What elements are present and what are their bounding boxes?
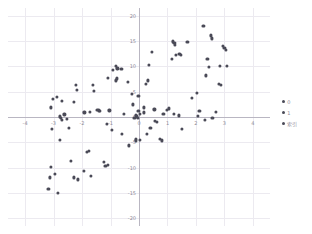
data-point bbox=[120, 132, 123, 135]
data-point bbox=[214, 110, 217, 113]
data-point bbox=[211, 116, 214, 119]
data-point bbox=[110, 129, 113, 132]
data-point bbox=[53, 173, 56, 176]
y-axis-tick-label: -15 bbox=[125, 190, 136, 196]
data-point bbox=[218, 65, 221, 68]
legend-item-label: 索引 bbox=[287, 121, 297, 127]
x-axis-tick-label: 1 bbox=[166, 120, 169, 126]
legend-marker-icon bbox=[282, 111, 285, 114]
legend-marker-icon bbox=[282, 122, 285, 125]
data-point bbox=[210, 37, 213, 40]
data-point bbox=[145, 132, 148, 135]
data-point bbox=[179, 54, 182, 57]
data-point bbox=[67, 127, 70, 130]
data-point bbox=[76, 178, 79, 181]
data-point bbox=[99, 109, 102, 112]
x-axis-tick-label: 0 bbox=[137, 120, 140, 126]
data-point bbox=[89, 174, 92, 177]
data-point bbox=[173, 43, 176, 46]
data-point bbox=[186, 40, 189, 43]
data-point bbox=[127, 144, 130, 147]
data-point bbox=[88, 110, 91, 113]
data-point bbox=[106, 76, 109, 79]
data-point bbox=[162, 112, 165, 115]
y-axis-tick-label: 20 bbox=[125, 13, 136, 19]
x-axis-tick-label: -1 bbox=[108, 120, 113, 126]
scatter-chart: -4-3-2-10123420151050-5-10-15-20 01索引 bbox=[0, 0, 312, 234]
data-point bbox=[204, 74, 207, 77]
legend-item[interactable]: 索引 bbox=[282, 118, 312, 129]
data-point bbox=[83, 111, 86, 114]
data-point bbox=[206, 57, 209, 60]
data-point bbox=[48, 176, 51, 179]
x-axis-tick-label: -4 bbox=[23, 120, 28, 126]
data-point bbox=[207, 65, 210, 68]
data-point bbox=[115, 79, 118, 82]
y-axis-tick-label: 10 bbox=[125, 63, 136, 69]
data-point bbox=[50, 106, 53, 109]
y-axis-tick-label: 15 bbox=[125, 38, 136, 44]
y-axis-tick-label: -10 bbox=[125, 165, 136, 171]
data-point bbox=[61, 118, 64, 121]
data-point bbox=[91, 83, 94, 86]
legend-item[interactable]: 0 bbox=[282, 96, 312, 107]
y-axis-tick-label: -20 bbox=[125, 215, 136, 221]
data-point bbox=[225, 65, 228, 68]
legend-item[interactable]: 1 bbox=[282, 107, 312, 118]
data-point bbox=[168, 107, 171, 110]
data-point bbox=[106, 164, 109, 167]
data-point bbox=[60, 99, 63, 102]
data-point bbox=[66, 117, 69, 120]
data-point bbox=[181, 128, 184, 131]
data-point bbox=[170, 58, 173, 61]
data-point bbox=[142, 106, 145, 109]
data-point bbox=[202, 25, 205, 28]
x-axis-tick-label: 4 bbox=[251, 120, 254, 126]
x-axis-tick-label: 3 bbox=[223, 120, 226, 126]
data-point bbox=[153, 108, 156, 111]
data-point bbox=[149, 126, 152, 129]
data-point bbox=[190, 97, 193, 100]
data-point bbox=[131, 93, 134, 96]
data-point bbox=[144, 82, 147, 85]
data-point bbox=[138, 112, 141, 115]
data-point bbox=[116, 67, 119, 70]
x-axis-tick-label: -2 bbox=[80, 120, 85, 126]
data-point bbox=[55, 95, 58, 98]
data-point bbox=[151, 50, 154, 53]
legend-item-label: 0 bbox=[287, 99, 290, 105]
legend-marker-icon bbox=[282, 100, 285, 103]
data-point bbox=[87, 149, 90, 152]
data-point bbox=[219, 83, 222, 86]
data-point bbox=[120, 67, 123, 70]
data-point bbox=[74, 83, 77, 86]
plot-area: -4-3-2-10123420151050-5-10-15-20 bbox=[0, 0, 278, 234]
data-point bbox=[139, 138, 142, 141]
data-point bbox=[111, 68, 114, 71]
data-point bbox=[72, 101, 75, 104]
data-point bbox=[203, 118, 206, 121]
data-point bbox=[146, 79, 149, 82]
data-point bbox=[131, 103, 134, 106]
data-point bbox=[126, 80, 129, 83]
data-point bbox=[82, 169, 85, 172]
data-point bbox=[58, 138, 61, 141]
x-axis-tick-label: -3 bbox=[51, 120, 56, 126]
chart-legend: 01索引 bbox=[282, 96, 312, 129]
data-point bbox=[195, 92, 198, 95]
data-point bbox=[198, 109, 201, 112]
data-point bbox=[69, 159, 72, 162]
data-point bbox=[72, 176, 75, 179]
legend-item-label: 1 bbox=[287, 110, 290, 116]
data-point bbox=[47, 187, 50, 190]
data-point bbox=[224, 48, 227, 51]
data-point bbox=[143, 111, 146, 114]
data-point bbox=[63, 113, 66, 116]
data-point bbox=[172, 112, 175, 115]
x-axis-tick-label: 2 bbox=[194, 120, 197, 126]
